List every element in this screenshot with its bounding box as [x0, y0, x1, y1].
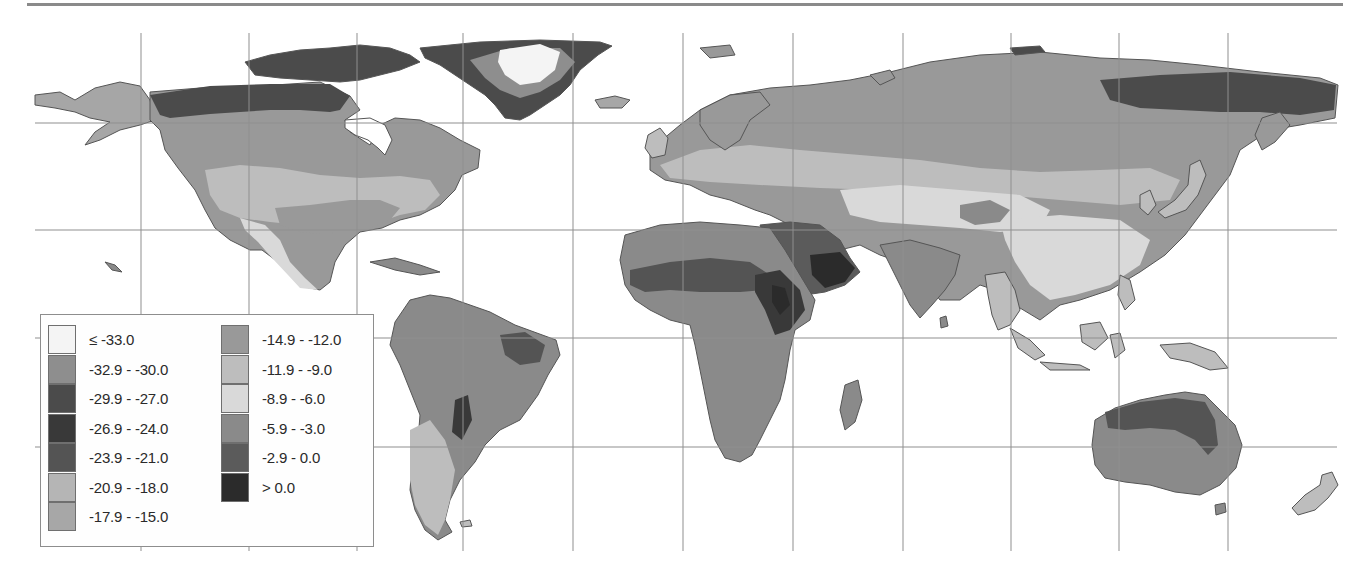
legend-label: -20.9 - -18.0	[89, 479, 168, 496]
legend-swatch	[48, 325, 76, 354]
legend-label: -8.9 - -6.0	[262, 390, 325, 407]
legend-item: -17.9 - -15.0	[48, 502, 168, 532]
legend-swatch	[221, 443, 249, 472]
landmass-hawaii	[105, 262, 122, 272]
landmass-falklands	[460, 520, 472, 527]
legend-label: -29.9 - -27.0	[89, 390, 168, 407]
legend-swatch	[221, 384, 249, 413]
landmass-svalbard	[700, 45, 735, 58]
legend-item: -23.9 - -21.0	[48, 443, 168, 473]
legend-item: -26.9 - -24.0	[48, 414, 168, 444]
landmass-caribbean	[370, 258, 440, 275]
landmass-tasmania	[1215, 503, 1226, 515]
legend-swatch	[48, 502, 76, 531]
legend-label: ≤ -33.0	[89, 331, 134, 348]
landmass-philippines	[1118, 275, 1135, 310]
legend-swatch	[48, 414, 76, 443]
legend-item: -8.9 - -6.0	[221, 384, 341, 414]
legend-label: -2.9 - 0.0	[262, 449, 320, 466]
legend-swatch	[48, 384, 76, 413]
legend-label: -11.9 - -9.0	[262, 361, 332, 378]
landmass-britain	[645, 128, 668, 158]
legend-swatch	[221, 473, 249, 502]
legend-swatch	[221, 325, 249, 354]
landmass-sri-lanka	[940, 316, 948, 328]
legend-label: -32.9 - -30.0	[89, 361, 168, 378]
legend-item: -20.9 - -18.0	[48, 473, 168, 503]
legend-item: -32.9 - -30.0	[48, 355, 168, 385]
legend-item: -14.9 - -12.0	[221, 325, 341, 355]
legend-swatch	[48, 473, 76, 502]
legend-item: > 0.0	[221, 473, 341, 503]
landmass-java	[1040, 362, 1090, 370]
landmass-sumatra	[1010, 328, 1045, 360]
landmass-iceland	[595, 96, 630, 108]
legend-item: -11.9 - -9.0	[221, 355, 341, 385]
legend-label: -14.9 - -12.0	[262, 331, 341, 348]
legend-swatch	[48, 443, 76, 472]
landmass-africa	[620, 222, 815, 462]
landmass-india	[880, 240, 960, 318]
landmass-alaska	[35, 82, 155, 145]
legend-label: -5.9 - -3.0	[262, 420, 325, 437]
legend-item: ≤ -33.0	[48, 325, 168, 355]
map-legend: ≤ -33.0 -32.9 - -30.0 -29.9 - -27.0 -26.…	[40, 314, 374, 547]
legend-column-1: ≤ -33.0 -32.9 - -30.0 -29.9 - -27.0 -26.…	[48, 325, 168, 532]
landmass-new-zealand	[1292, 472, 1338, 515]
legend-swatch	[221, 355, 249, 384]
legend-item: -5.9 - -3.0	[221, 414, 341, 444]
legend-column-2: -14.9 - -12.0 -11.9 - -9.0 -8.9 - -6.0 -…	[221, 325, 341, 502]
landmass-arctic-islands	[245, 45, 420, 82]
legend-label: -23.9 - -21.0	[89, 449, 168, 466]
legend-swatch	[221, 414, 249, 443]
landmass-borneo	[1080, 322, 1108, 350]
legend-label: > 0.0	[262, 479, 295, 496]
legend-swatch	[48, 355, 76, 384]
legend-label: -17.9 - -15.0	[89, 508, 168, 525]
legend-item: -29.9 - -27.0	[48, 384, 168, 414]
legend-item: -2.9 - 0.0	[221, 443, 341, 473]
landmass-madagascar	[840, 380, 862, 430]
landmass-new-guinea	[1160, 343, 1228, 370]
legend-label: -26.9 - -24.0	[89, 420, 168, 437]
landmass-sulawesi	[1110, 333, 1125, 358]
